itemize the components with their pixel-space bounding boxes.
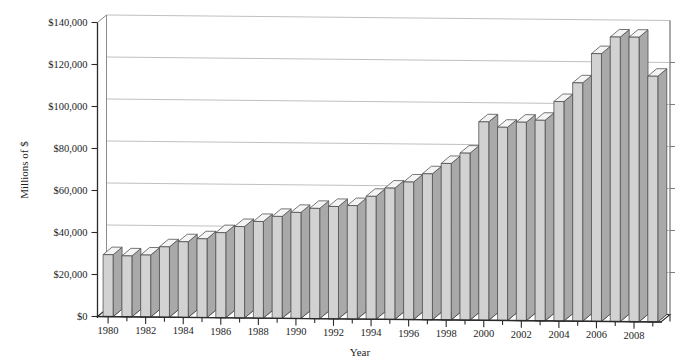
bar-side-1998 xyxy=(451,156,460,320)
y-axis-tick-label: $40,000 xyxy=(53,227,87,238)
bar-front-1995 xyxy=(385,188,395,319)
x-axis-tick-label: 1984 xyxy=(173,325,195,336)
bar-side-1982 xyxy=(151,248,160,317)
bar-front-1987 xyxy=(235,226,245,317)
x-axis-title: Year xyxy=(350,346,371,358)
bar-1994 xyxy=(366,189,385,319)
bar-side-1987 xyxy=(245,219,254,318)
bar-side-1985 xyxy=(207,231,216,317)
bar-front-1996 xyxy=(404,182,414,320)
bar-side-2003 xyxy=(545,113,554,321)
bar-front-1980 xyxy=(103,255,113,317)
bar-1980 xyxy=(103,247,122,317)
bar-side-1994 xyxy=(376,189,385,319)
x-axis-tick-label: 1990 xyxy=(285,326,306,337)
y-axis-tick-label: $100,000 xyxy=(48,101,87,112)
bar-front-1998 xyxy=(441,163,451,320)
bar-front-1989 xyxy=(272,216,282,318)
bar-side-2002 xyxy=(526,115,535,321)
bar-2006 xyxy=(591,46,610,321)
x-axis-tick-label: 1998 xyxy=(436,328,457,339)
y-axis-tick-label: $60,000 xyxy=(53,185,87,196)
bar-front-1982 xyxy=(141,255,151,317)
bar-front-2006 xyxy=(591,54,601,322)
bar-front-1988 xyxy=(253,221,263,318)
x-axis-tick-label: 1986 xyxy=(210,326,231,337)
x-axis-tick-label: 2006 xyxy=(586,329,607,340)
y-axis-title: Millions of $ xyxy=(18,141,30,199)
bar-front-1990 xyxy=(291,212,301,318)
bar-side-1984 xyxy=(188,234,197,317)
x-axis-tick-label: 2008 xyxy=(624,330,645,341)
bar-side-1993 xyxy=(357,198,366,319)
y-axis-tick-label: $140,000 xyxy=(48,17,87,28)
gridline-140000 xyxy=(107,15,671,21)
bar-front-1983 xyxy=(159,247,169,317)
bar-side-2007 xyxy=(620,30,629,322)
y-axis-tick-label: $80,000 xyxy=(53,143,87,154)
bar-1987 xyxy=(235,219,254,318)
bar-side-1988 xyxy=(263,214,272,318)
x-axis-tick-label: 1988 xyxy=(248,326,269,337)
bar-1998 xyxy=(441,156,460,320)
bar-front-1992 xyxy=(328,206,338,318)
bar-2001 xyxy=(498,120,517,321)
bar-side-1991 xyxy=(320,201,329,319)
bar-1982 xyxy=(141,247,160,317)
bar-side-1997 xyxy=(432,166,441,319)
bar-2004 xyxy=(554,94,573,321)
bar-1997 xyxy=(422,166,441,320)
bar-side-1995 xyxy=(395,181,404,320)
bar-1988 xyxy=(253,214,272,318)
bar-side-1999 xyxy=(470,146,479,320)
bar-side-1986 xyxy=(226,225,235,318)
bar-side-1983 xyxy=(169,239,178,317)
bar-chart-figure: $0$20,000$40,000$60,000$80,000$100,000$1… xyxy=(0,0,679,364)
y-axis-depth-edge xyxy=(98,15,107,23)
bar-2009 xyxy=(648,69,667,322)
bar-1999 xyxy=(460,146,479,321)
bar-2002 xyxy=(516,115,535,321)
bar-front-2002 xyxy=(516,122,526,321)
bar-front-2005 xyxy=(573,83,583,321)
bar-front-1991 xyxy=(310,208,320,318)
bar-side-2004 xyxy=(564,94,573,321)
bar-front-2004 xyxy=(554,102,564,322)
bar-2008 xyxy=(629,30,648,322)
bar-side-1981 xyxy=(132,248,141,316)
y-axis-tick-label: $0 xyxy=(77,311,88,322)
bar-front-1981 xyxy=(122,256,132,317)
chart-canvas: $0$20,000$40,000$60,000$80,000$100,000$1… xyxy=(0,0,679,364)
bar-front-1994 xyxy=(366,196,376,319)
gridline-120000 xyxy=(107,57,671,63)
bar-side-1989 xyxy=(282,209,291,318)
bar-2000 xyxy=(479,114,498,320)
bar-1984 xyxy=(178,234,197,317)
bar-1983 xyxy=(159,239,178,317)
x-axis-tick-label: 2004 xyxy=(548,329,570,340)
bar-side-2005 xyxy=(583,75,592,321)
x-axis-tick-label: 1996 xyxy=(398,328,419,339)
bar-front-1984 xyxy=(178,242,188,318)
bar-side-1990 xyxy=(301,205,310,319)
bar-side-2000 xyxy=(489,114,498,320)
x-axis-tick-label: 1992 xyxy=(323,327,344,338)
bar-front-2003 xyxy=(535,120,545,321)
bar-front-1986 xyxy=(216,233,226,318)
bar-1985 xyxy=(197,231,216,317)
bar-front-1993 xyxy=(347,206,357,319)
bar-side-1980 xyxy=(113,247,122,316)
bar-2003 xyxy=(535,113,554,321)
bar-1990 xyxy=(291,205,310,319)
bar-side-2006 xyxy=(601,46,610,321)
bar-front-2008 xyxy=(629,37,639,322)
bar-1993 xyxy=(347,198,366,319)
bar-1991 xyxy=(310,201,329,319)
x-axis-tick-label: 2002 xyxy=(511,329,532,340)
y-axis-tick-label: $20,000 xyxy=(53,269,87,280)
y-axis-tick-label: $120,000 xyxy=(48,59,87,70)
bar-front-2009 xyxy=(648,76,658,322)
bar-side-2001 xyxy=(508,120,517,321)
x-axis-tick-label: 1982 xyxy=(135,325,156,336)
bar-front-2000 xyxy=(479,122,489,321)
